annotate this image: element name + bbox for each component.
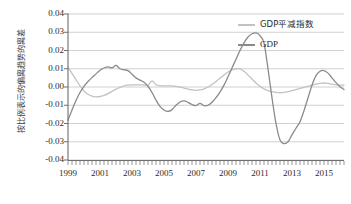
legend-label-gdp: GDP: [260, 40, 278, 49]
gdp-deviation-chart: 按比例表示的偏离趋势的离差 0.040.030.020.010.00-0.01-…: [0, 0, 351, 204]
legend-item-gdp: GDP: [238, 39, 314, 50]
series-line-gdp-deflator: [68, 67, 344, 97]
y-tick-label: -0.01: [22, 100, 64, 109]
legend-item-gdp-deflator: GDP平减指数: [238, 19, 314, 30]
y-tick-marks: [64, 14, 68, 160]
legend-label-gdp-deflator: GDP平减指数: [260, 20, 314, 29]
x-tick-label: 2015: [304, 169, 344, 178]
y-tick-label: 0.01: [22, 64, 64, 73]
x-tick-marks: [68, 161, 344, 165]
legend-swatch-gdp: [238, 44, 255, 46]
chart-legend: GDP平减指数 GDP: [238, 19, 314, 50]
y-tick-label: 0.02: [22, 46, 64, 55]
y-tick-label: 0.00: [22, 82, 64, 91]
y-tick-label: 0.03: [22, 27, 64, 36]
legend-swatch-gdp-deflator: [238, 24, 255, 26]
y-tick-label: -0.04: [22, 155, 64, 164]
y-tick-label: 0.04: [22, 9, 64, 18]
y-tick-label: -0.03: [22, 137, 64, 146]
y-tick-label: -0.02: [22, 119, 64, 128]
